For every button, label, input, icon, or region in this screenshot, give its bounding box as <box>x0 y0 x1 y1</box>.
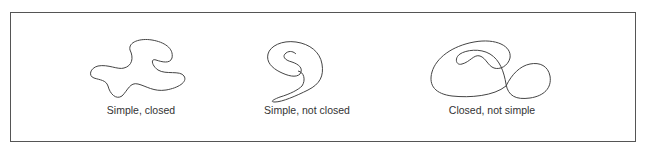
caption-closed-not-simple: Closed, not simple <box>449 104 535 116</box>
curves-canvas <box>0 0 647 152</box>
simple-not-closed-curve <box>268 42 323 102</box>
simple-closed-curve <box>91 39 185 97</box>
closed-not-simple-curve <box>431 41 550 99</box>
caption-simple-closed: Simple, closed <box>107 104 175 116</box>
caption-simple-not-closed: Simple, not closed <box>264 104 350 116</box>
